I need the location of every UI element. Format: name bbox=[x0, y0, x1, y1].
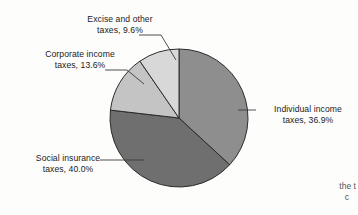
pie-label-individual-income-line1: Individual income bbox=[258, 104, 358, 115]
pie-label-corporate-income-line1: Corporate income bbox=[22, 49, 138, 60]
pie-label-individual-income: Individual income taxes, 36.9% bbox=[258, 104, 358, 126]
pie-label-social-insurance: Social insurance taxes, 40.0% bbox=[10, 153, 126, 175]
pie-label-corporate-income: Corporate income taxes, 13.6% bbox=[22, 49, 138, 71]
pie-label-excise-other: Excise and other taxes, 9.6% bbox=[62, 14, 178, 36]
pie-label-social-insurance-line2: taxes, 40.0% bbox=[10, 164, 126, 175]
pie-label-excise-other-line1: Excise and other bbox=[62, 14, 178, 25]
page-body-text-fragment-line1: the t bbox=[300, 181, 356, 192]
pie-label-social-insurance-line1: Social insurance bbox=[10, 153, 126, 164]
pie-label-individual-income-line2: taxes, 36.9% bbox=[258, 115, 358, 126]
pie-chart-figure: Excise and other taxes, 9.6% Corporate i… bbox=[0, 0, 358, 215]
pie-label-excise-other-line2: taxes, 9.6% bbox=[62, 25, 178, 36]
page-body-text-fragment-line2: c bbox=[300, 192, 356, 203]
page-body-text-fragment: the t c bbox=[300, 181, 356, 203]
pie-label-corporate-income-line2: taxes, 13.6% bbox=[22, 60, 138, 71]
